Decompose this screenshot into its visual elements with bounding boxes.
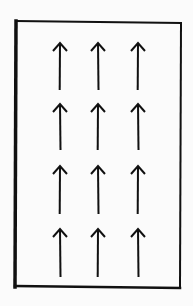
arrow-shaft [138, 105, 139, 150]
arrow-shaft [60, 105, 61, 150]
arrow-shaft [98, 44, 99, 90]
arrow-shaft [98, 167, 99, 214]
up-arrow-icon [91, 229, 105, 277]
up-arrow-icon [53, 43, 67, 90]
up-arrow-icon [131, 166, 145, 214]
up-arrow-icon [53, 229, 67, 277]
arrow-grid [53, 43, 145, 277]
box-top-edge [16, 21, 181, 23]
box-bottom-edge [15, 286, 180, 288]
up-arrow-icon [131, 104, 145, 150]
arrow-shaft [60, 230, 61, 277]
diagram-canvas [0, 0, 193, 306]
up-arrow-icon [53, 104, 67, 150]
up-arrow-icon [131, 229, 145, 277]
up-arrow-icon [91, 166, 105, 214]
up-arrow-icon [91, 43, 105, 90]
arrow-shaft [138, 230, 139, 277]
up-arrow-icon [91, 104, 105, 150]
up-arrow-icon [131, 43, 145, 90]
up-arrow-icon [53, 166, 67, 214]
box-right-edge [180, 23, 181, 288]
box-left-edge [15, 21, 16, 287]
